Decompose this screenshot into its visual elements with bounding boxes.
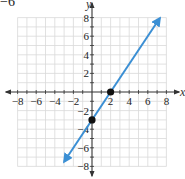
y-tick-label: 4 [84, 49, 90, 61]
x-tick-label: 2 [108, 95, 114, 107]
tick-labels: xy−8−6−4−224688642−2−4−6−8 [12, 0, 185, 172]
x-tick-label: 8 [164, 95, 170, 107]
x-tick-label: 4 [126, 95, 132, 107]
x-tick-label: −8 [12, 95, 24, 107]
x-axis-label: x [179, 85, 185, 99]
y-tick-label: −6 [77, 142, 89, 154]
intercept-point [88, 116, 95, 123]
x-tick-label: −6 [30, 95, 42, 107]
y-tick-label: −2 [77, 105, 89, 117]
intercept-point [107, 88, 114, 95]
x-tick-label: 6 [145, 95, 151, 107]
y-tick-label: 8 [84, 12, 90, 24]
y-tick-label: −8 [77, 160, 89, 172]
y-tick-label: 2 [84, 67, 90, 79]
y-tick-label: 6 [84, 30, 90, 42]
x-tick-label: −4 [49, 95, 61, 107]
y-axis-label: y [85, 0, 92, 11]
coordinate-plane: xy−8−6−4−224688642−2−4−6−8 [0, 0, 185, 179]
